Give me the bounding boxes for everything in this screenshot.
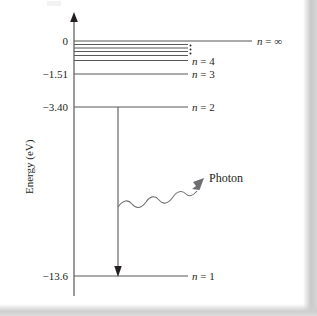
energy-levels	[74, 41, 252, 276]
tick-label-0: 0	[28, 36, 68, 47]
photon-wave-icon	[118, 178, 204, 208]
level-label-n1: n = 1	[192, 271, 215, 282]
level-label-n-infinity: n = ∞	[257, 36, 282, 47]
tick-label-minus-13-6: −13.6	[18, 271, 68, 282]
level-label-n3: n = 3	[192, 69, 215, 80]
photon-arrowhead-icon	[192, 178, 204, 190]
figure-card: Energy (eV) 0 −1.51 −3.40 −13.6 n = ∞ n …	[0, 0, 303, 304]
transition-arrowhead-icon	[114, 266, 121, 277]
photon-wave-path	[118, 191, 197, 208]
transition-arrow	[114, 107, 121, 277]
y-axis-label: Energy (eV)	[24, 140, 35, 194]
page-edge-shadow-bottom	[0, 304, 317, 316]
figure-page: Energy (eV) 0 −1.51 −3.40 −13.6 n = ∞ n …	[0, 0, 317, 316]
page-edge-shadow-right	[303, 0, 317, 316]
levels-ellipsis-icon	[190, 45, 192, 55]
level-label-n2: n = 2	[192, 102, 215, 113]
y-axis	[70, 12, 78, 296]
tick-label-minus-3-40: −3.40	[18, 102, 68, 113]
photon-annotation-label: Photon	[209, 172, 243, 184]
tick-label-minus-1-51: −1.51	[18, 69, 68, 80]
level-label-n4: n = 4	[192, 56, 215, 67]
y-axis-arrowhead-icon	[70, 12, 78, 22]
